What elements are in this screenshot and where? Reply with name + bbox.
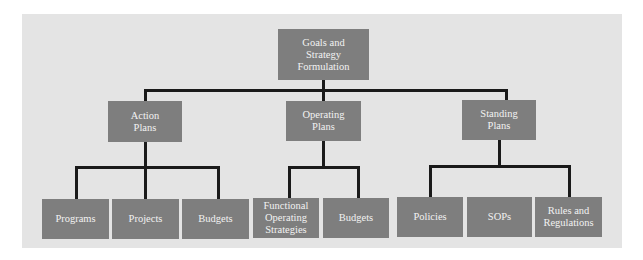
connector-standing-down (498, 140, 501, 168)
node-rules-and-regulations: Rules and Regulations (535, 197, 602, 237)
connector-budgets-operating (357, 166, 360, 198)
node-functional-operating-strategies: Functional Operating Strategies (253, 198, 319, 238)
node-budgets-operating: Budgets (323, 198, 389, 238)
connector-rules (568, 165, 571, 197)
connector-action-up (144, 89, 147, 101)
node-projects: Projects (112, 199, 179, 239)
connector-standing-horizontal (429, 165, 571, 168)
connector-budgets-action (217, 166, 220, 199)
connector-projects (144, 166, 147, 199)
node-operating-plans: Operating Plans (286, 101, 361, 141)
node-sops: SOPs (467, 197, 532, 237)
node-programs: Programs (42, 199, 109, 239)
connector-programs (75, 166, 78, 199)
connector-functional (288, 166, 291, 198)
connector-operating-horizontal (288, 166, 360, 169)
node-goals-strategy-formulation: Goals and Strategy Formulation (278, 29, 369, 80)
connector-action-down (144, 142, 147, 169)
node-standing-plans: Standing Plans (462, 100, 536, 140)
connector-operating-down (322, 141, 325, 169)
connector-action-horizontal (75, 166, 220, 169)
node-action-plans: Action Plans (108, 101, 182, 142)
node-policies: Policies (397, 197, 463, 237)
connector-operating-up (322, 89, 325, 101)
node-budgets-action: Budgets (182, 199, 249, 239)
connector-level1-horizontal (144, 89, 508, 92)
connector-policies (429, 165, 432, 197)
